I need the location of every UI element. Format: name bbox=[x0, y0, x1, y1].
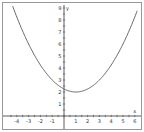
x-tick-label: 6 bbox=[133, 118, 136, 124]
x-tick-label: -1 bbox=[50, 118, 55, 124]
x-tick-label: 4 bbox=[110, 118, 113, 124]
parabola-chart: -4-3-2-1123456123456789xy bbox=[0, 0, 144, 132]
y-tick-label: 6 bbox=[58, 41, 61, 47]
y-tick-label: 3 bbox=[58, 77, 61, 83]
x-tick-label: 5 bbox=[121, 118, 124, 124]
y-tick-label: 5 bbox=[58, 53, 61, 59]
y-tick-label: 1 bbox=[58, 101, 61, 107]
x-tick-label: -3 bbox=[26, 118, 31, 124]
x-axis-label: x bbox=[133, 108, 136, 114]
parabola-curve bbox=[13, 6, 137, 92]
y-tick-label: 9 bbox=[58, 5, 61, 11]
y-axis-label: y bbox=[66, 5, 69, 12]
x-tick-label: -2 bbox=[38, 118, 43, 124]
y-tick-label: 2 bbox=[58, 89, 61, 95]
x-tick-label: 2 bbox=[86, 118, 89, 124]
x-tick-label: -4 bbox=[14, 118, 19, 124]
y-tick-label: 4 bbox=[58, 65, 61, 71]
x-tick-label: 3 bbox=[98, 118, 101, 124]
y-tick-label: 8 bbox=[58, 17, 61, 23]
plot-frame bbox=[3, 3, 142, 130]
x-tick-label: 1 bbox=[74, 118, 77, 124]
y-tick-label: 7 bbox=[58, 29, 61, 35]
